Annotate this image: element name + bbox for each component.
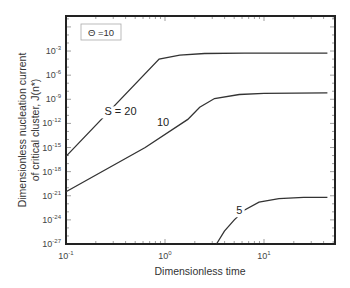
x-axis-title: Dimensionless time [154,265,245,277]
x-tick-label: 101 [257,250,271,261]
y-tick-label: 10-24 [42,214,61,225]
y-tick-label: 10-21 [42,190,61,201]
y-tick-label: 10-9 [46,93,62,104]
y-tick-label: 10-27 [42,238,61,249]
y-tick-label: 10-6 [46,69,62,80]
curve-label: 10 [157,116,169,128]
y-tick-labels: 10-310-610-910-1210-1510-1810-2110-2410-… [42,45,61,249]
legend-text: Θ =10 [88,27,114,38]
y-axis-title-line-1: Dimensionless nucleation current [16,53,28,208]
x-tick-labels: 10-1100101 [58,250,271,261]
x-tick-label: 10-1 [58,250,74,261]
chart: S = 20105 10-310-610-910-1210-1510-1810-… [0,0,350,288]
curve-s5 [217,197,328,244]
curve-label: 5 [236,204,242,216]
y-tick-label: 10-15 [42,142,61,153]
y-tick-label: 10-12 [42,117,61,128]
x-tick-label: 100 [158,250,172,261]
minor-ticks [66,16,335,244]
curve-label: S = 20 [104,105,136,117]
y-tick-label: 10-3 [46,45,62,56]
plot-frame [66,16,335,244]
y-tick-label: 10-18 [42,166,61,177]
y-axis-title: Dimensionless nucleation current of crit… [16,53,41,208]
legend-box: Θ =10 [81,24,121,40]
curves [66,53,327,244]
y-axis-title-line-2: of critical cluster, J(n*) [29,79,41,182]
